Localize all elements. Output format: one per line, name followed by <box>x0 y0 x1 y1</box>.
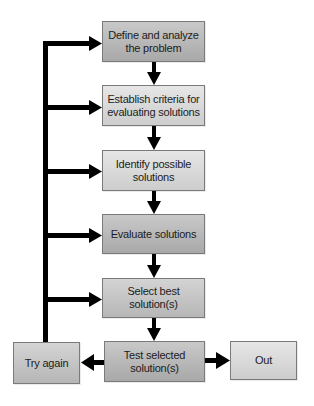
branch-out: Out <box>230 341 297 380</box>
feedback-arrow-criteria <box>43 100 102 115</box>
step-label-line1: Select best <box>127 285 179 298</box>
branch-try-again: Try again <box>13 342 80 384</box>
step-identify-solutions: Identify possible solutions <box>102 150 205 191</box>
feedback-arrow-evaluate <box>43 228 102 243</box>
step-label-line1: Establish criteria for <box>107 93 199 106</box>
feedback-arrow-select <box>43 292 102 307</box>
step-establish-criteria: Establish criteria for evaluating soluti… <box>102 85 205 126</box>
down-arrow-1 <box>147 62 161 85</box>
step-define-problem: Define and analyze the problem <box>102 21 205 62</box>
flowchart-canvas: Define and analyze the problem Establish… <box>0 0 314 406</box>
step-label-line1: Define and analyze <box>108 29 199 42</box>
step-label-line2: evaluating solutions <box>107 106 200 119</box>
branch-label: Try again <box>25 357 69 370</box>
feedback-line <box>43 41 48 342</box>
branch-label: Out <box>255 354 272 367</box>
step-label-line1: Test selected <box>124 349 186 362</box>
step-label-line2: solution(s) <box>130 362 179 375</box>
arrow-to-out <box>205 352 230 369</box>
step-label-line2: solution(s) <box>129 298 178 311</box>
step-label-line2: the problem <box>126 42 182 55</box>
step-label-line1: Evaluate solutions <box>111 228 197 241</box>
step-select-best: Select best solution(s) <box>102 278 205 318</box>
feedback-arrow-identify <box>43 164 102 179</box>
step-test-selected: Test selected solution(s) <box>104 341 205 382</box>
down-arrow-2 <box>147 126 161 150</box>
down-arrow-5 <box>147 318 161 341</box>
down-arrow-3 <box>147 191 161 214</box>
arrow-to-try-again <box>81 354 104 371</box>
feedback-arrow-define <box>43 36 102 51</box>
step-label-line1: Identify possible <box>116 158 191 171</box>
step-label-line2: solutions <box>133 171 175 184</box>
down-arrow-4 <box>147 254 161 278</box>
step-evaluate-solutions: Evaluate solutions <box>102 214 205 254</box>
